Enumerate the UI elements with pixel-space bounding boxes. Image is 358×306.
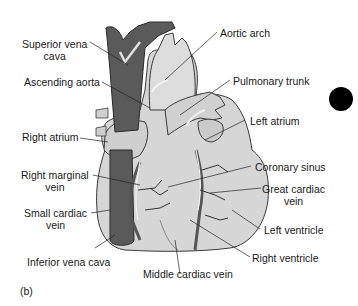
label-pulmonary-trunk: Pulmonary trunk: [233, 75, 309, 87]
label-ascending-aorta: Ascending aorta: [24, 76, 100, 88]
label-small-cardiac-vein: Small cardiac vein: [24, 207, 87, 231]
label-middle-cardiac-vein: Middle cardiac vein: [143, 268, 233, 280]
label-superior-vena-cava: Superior vena cava: [22, 38, 87, 62]
label-left-atrium: Left atrium: [250, 115, 300, 127]
label-left-ventricle: Left ventricle: [264, 224, 324, 236]
label-aortic-arch: Aortic arch: [220, 27, 270, 39]
label-right-marginal-vein: Right marginal vein: [21, 169, 89, 193]
panel-label: (b): [20, 285, 33, 297]
marker-dot: [329, 87, 353, 111]
label-right-ventricle: Right ventricle: [252, 252, 319, 264]
label-inferior-vena-cava: Inferior vena cava: [27, 256, 110, 268]
label-great-cardiac-vein: Great cardiac vein: [262, 183, 325, 207]
label-coronary-sinus: Coronary sinus: [255, 161, 326, 173]
label-right-atrium: Right atrium: [22, 131, 79, 143]
